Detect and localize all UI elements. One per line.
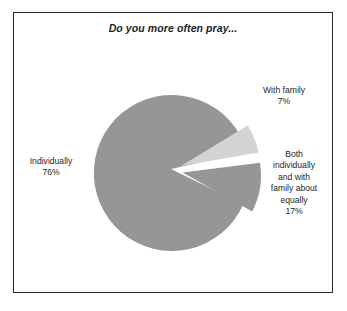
chart-frame: Do you more often pray... Individually 7… bbox=[13, 12, 333, 293]
pie-label-individually: Individually 76% bbox=[8, 156, 94, 179]
pie-label-with-family: With family 7% bbox=[236, 85, 332, 108]
pie-label-both-individually-and-with-family: Both individually and with family about … bbox=[254, 149, 334, 217]
scan-artifact-text: · · · · · · · bbox=[0, 0, 347, 7]
pie-chart: Individually 76% With family 7% Both ind… bbox=[14, 13, 334, 294]
